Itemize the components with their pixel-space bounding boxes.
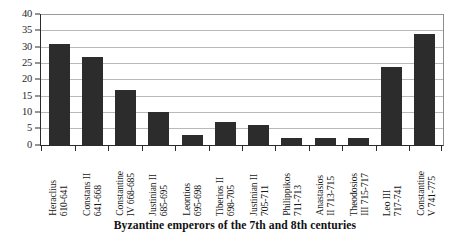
x-axis-label: TheodosiosIII 715-717	[348, 150, 370, 216]
x-axis-label: ConstantineIV 668-685	[114, 150, 136, 216]
x-axis-label: Philippikos711-713	[281, 150, 303, 216]
x-axis-label: Justinian II685-695	[147, 150, 169, 216]
bar[interactable]	[82, 57, 103, 145]
bar-slot	[142, 14, 175, 145]
x-axis-labels: Heraclius610-641Constans II641-668Consta…	[41, 150, 442, 216]
reign-years: 698-705	[225, 185, 236, 216]
x-axis-label-cell: ConstantineIV 668-685	[108, 150, 141, 216]
emperor-name: Anastasios	[314, 175, 325, 216]
reign-years: V 741-775	[426, 176, 437, 216]
emperor-name: Philippikos	[281, 173, 292, 216]
y-axis-tick-label: 15	[22, 90, 32, 101]
x-axis-label: Justinian II705-711	[248, 150, 270, 216]
bar[interactable]	[248, 125, 269, 145]
emperor-name: Constantine	[114, 171, 125, 216]
bar-slot	[109, 14, 142, 145]
bar-slot	[209, 14, 242, 145]
y-axis-tick-label: 30	[22, 41, 32, 52]
bar[interactable]	[381, 67, 402, 145]
bar[interactable]	[49, 44, 70, 145]
bar-slot	[42, 14, 75, 145]
x-axis-label-cell: Tiberios II698-705	[209, 150, 242, 216]
reign-years: 705-711	[259, 185, 270, 216]
y-axis-tick-label: 10	[22, 107, 32, 118]
emperor-name: Theodosios	[348, 173, 359, 216]
bar[interactable]	[182, 135, 203, 145]
bar-slot	[408, 14, 441, 145]
bar[interactable]	[281, 138, 302, 145]
y-axis-tick-label: 35	[22, 25, 32, 36]
x-axis-label-cell: TheodosiosIII 715-717	[342, 150, 375, 216]
chart-caption: Byzantine emperors of the 7th and 8th ce…	[0, 219, 470, 232]
reign-years: 641-668	[92, 185, 103, 216]
bar-slot	[175, 14, 208, 145]
y-axis-tick-label: 5	[27, 123, 32, 134]
x-axis-label-cell: Leontios695-698	[175, 150, 208, 216]
bar[interactable]	[115, 90, 136, 146]
emperor-name: Constantine	[415, 171, 426, 216]
reign-years: 685-695	[158, 185, 169, 216]
x-axis-label: Leo III717-741	[381, 150, 403, 216]
reign-years: III 715-717	[359, 173, 370, 216]
bars-container	[42, 14, 441, 145]
bar[interactable]	[348, 138, 369, 145]
emperor-name: Justinian II	[147, 174, 158, 216]
emperor-name: Justinian II	[248, 174, 259, 216]
x-axis-label: Tiberios II698-705	[214, 150, 236, 216]
bar[interactable]	[148, 112, 169, 145]
emperor-name: Leontios	[181, 183, 192, 216]
reign-years: IV 668-685	[125, 173, 136, 216]
bar-slot	[309, 14, 342, 145]
bar[interactable]	[414, 34, 435, 145]
reign-years: 695-698	[192, 185, 203, 216]
x-axis-label: AnastasiosII 713-715	[314, 150, 336, 216]
bar[interactable]	[215, 122, 236, 145]
bar-slot	[76, 14, 109, 145]
x-axis-label-cell: Justinian II705-711	[242, 150, 275, 216]
x-axis-label-cell: Philippikos711-713	[275, 150, 308, 216]
reign-years: 711-713	[292, 185, 303, 216]
bar-slot	[275, 14, 308, 145]
y-axis: 4035302520151050	[0, 14, 40, 146]
bar[interactable]	[315, 138, 336, 145]
bar-slot	[242, 14, 275, 145]
x-axis-label-cell: AnastasiosII 713-715	[309, 150, 342, 216]
bar-slot	[342, 14, 375, 145]
plot-area	[40, 14, 444, 146]
emperor-name: Constans II	[81, 173, 92, 216]
emperor-name: Heraclius	[47, 180, 58, 216]
reign-years: 610-641	[58, 185, 69, 216]
x-axis-label-cell: Heraclius610-641	[41, 150, 74, 216]
bar-chart-figure: 4035302520151050 Heraclius610-641Constan…	[0, 0, 470, 239]
x-axis-label: Constans II641-668	[81, 150, 103, 216]
x-axis-label: Leontios695-698	[181, 150, 203, 216]
x-axis-label: Heraclius610-641	[47, 150, 69, 216]
x-axis-label-cell: Leo III717-741	[376, 150, 409, 216]
y-axis-tick-label: 0	[27, 139, 32, 150]
emperor-name: Leo III	[381, 190, 392, 216]
emperor-name: Tiberios II	[214, 177, 225, 216]
x-axis-label-cell: ConstantineV 741-775	[409, 150, 442, 216]
reign-years: II 713-715	[325, 176, 336, 216]
y-axis-tick-label: 40	[22, 9, 32, 20]
x-axis-label-cell: Constans II641-668	[75, 150, 108, 216]
x-axis-label-cell: Justinian II685-695	[142, 150, 175, 216]
y-axis-tick-label: 25	[22, 58, 32, 69]
reign-years: 717-741	[392, 185, 403, 216]
bar-slot	[375, 14, 408, 145]
y-axis-tick-label: 20	[22, 74, 32, 85]
x-axis-label: ConstantineV 741-775	[415, 150, 437, 216]
